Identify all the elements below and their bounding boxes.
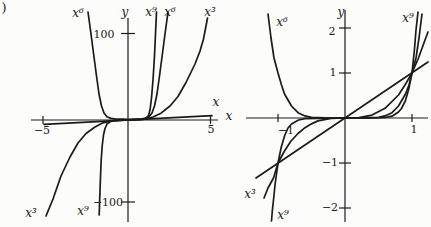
- right-ytick-2-label: 2: [329, 26, 336, 37]
- left-label-x-line: x: [213, 96, 220, 108]
- left-label-x6-left: x⁶: [72, 7, 84, 19]
- right-ytick-1-label: 1: [330, 67, 337, 78]
- left-label-x9-bottom: x⁹: [77, 205, 89, 217]
- left-label-x6-right: x⁶: [164, 6, 176, 18]
- left-x-axis-label: x: [226, 110, 233, 122]
- left-xtick-5-label: 5: [208, 124, 215, 135]
- right-label-x9-top: x⁹: [402, 12, 414, 24]
- left-ytick-neg100-label: −100: [93, 197, 123, 208]
- left-label-x3-top: x³: [204, 6, 216, 18]
- right-label-x6-top: x⁶: [276, 16, 288, 28]
- right-curve-x3: [264, 32, 428, 198]
- right-xtick-1-label: 1: [411, 124, 418, 135]
- right-label-x3-bottom: x³: [244, 188, 256, 200]
- curves-svg: [0, 0, 431, 227]
- figure-label-fragment: ): [1, 1, 6, 14]
- right-ytick-neg1-label: −1: [322, 157, 338, 168]
- right-ytick-neg2-label: −2: [322, 202, 338, 213]
- right-graph-axes: [246, 10, 428, 222]
- left-y-axis-label: y: [122, 6, 129, 18]
- right-graph-curves: [256, 12, 428, 221]
- right-label-x9-bottom: x⁹: [277, 209, 289, 221]
- left-ytick-100-label: 100: [94, 29, 115, 40]
- left-label-x9-top: x⁹: [145, 6, 157, 18]
- left-label-x3-bottom: x³: [25, 207, 37, 219]
- right-xtick-neg1-label: −1: [278, 125, 294, 136]
- figure-canvas: ) x⁶ y x⁹ x⁶ x³ 100 −100 −5 5 x x x³ x⁹ …: [0, 0, 431, 227]
- right-y-axis-label: y: [338, 6, 345, 18]
- left-xtick-neg5-label: −5: [34, 125, 50, 136]
- right-curve-x: [256, 62, 428, 178]
